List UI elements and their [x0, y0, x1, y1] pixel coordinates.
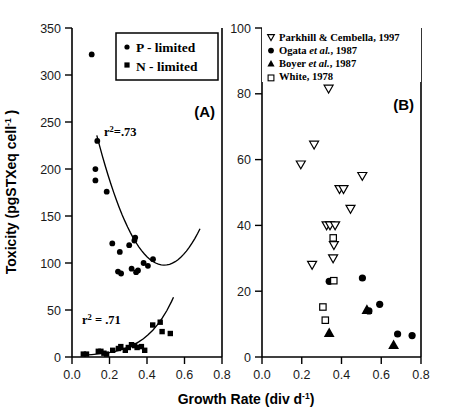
legend-marker-open-square-icon: [268, 75, 274, 81]
panel-a-ytick-0: 0: [54, 351, 61, 365]
panel-a-ytick-200: 200: [40, 163, 61, 177]
panel-a-x-ticks: [72, 357, 222, 364]
panel-a-ytick-50: 50: [47, 304, 61, 318]
data-point: [93, 166, 99, 172]
panel-b-series-boyer: [324, 304, 399, 349]
data-point: [94, 138, 100, 144]
panel-a-annotation-r2-p: r2=.73: [104, 124, 137, 139]
panel-b-xtick-0.4: 0.4: [333, 368, 350, 382]
panel-b-ytick-100: 100: [230, 22, 251, 36]
panel-b-xtick-0.6: 0.6: [373, 368, 390, 382]
data-point: [84, 351, 89, 356]
panel-b-ytick-20: 20: [237, 285, 251, 299]
data-point: [117, 249, 123, 255]
data-point: [409, 332, 416, 339]
panel-b-y-ticklabels: 0 20 40 60 80 100: [230, 22, 251, 365]
legend-marker-filled-circle-icon: [124, 44, 129, 49]
data-point: [376, 301, 383, 308]
panel-b-legend-label-parkhill: Parkhill & Cembella, 1997: [279, 32, 400, 43]
data-point: [158, 320, 163, 325]
data-point: [322, 317, 328, 323]
data-point: [331, 278, 337, 284]
svg-text:r2 = .71: r2 = .71: [82, 312, 121, 327]
panel-a-y-ticks: [65, 28, 72, 357]
panel-a-xtick-0.0: 0.0: [63, 368, 80, 382]
data-point: [110, 348, 115, 353]
panel-a-series-p-limited: [89, 52, 156, 277]
panel-b-legend: Parkhill & Cembella, 1997 Ogata et al., …: [262, 28, 421, 82]
data-point: [308, 261, 317, 269]
panel-b: 0 20 40 60 80 100 0.0 0.2 0.4 0.6 0.8 (B…: [230, 22, 430, 383]
panel-a-xtick-0.2: 0.2: [101, 368, 118, 382]
panel-b-ytick-0: 0: [244, 351, 251, 365]
data-point: [394, 330, 401, 337]
data-point: [330, 235, 336, 241]
panel-a-y-ticklabels: 0 50 100 150 200 250 300 350: [40, 22, 61, 365]
data-point: [358, 173, 367, 181]
panel-a-annotation-r2-n: r2 = .71: [82, 312, 121, 327]
panel-a-ytick-150: 150: [40, 210, 61, 224]
data-point: [150, 256, 156, 262]
panel-b-y-ticks: [255, 28, 262, 357]
panel-b-x-ticks: [262, 357, 421, 364]
x-axis-title: Growth Rate (div d-1): [178, 391, 315, 407]
data-point: [150, 322, 155, 327]
data-point: [346, 205, 355, 213]
panel-a-xtick-0.6: 0.6: [176, 368, 193, 382]
data-point: [320, 304, 326, 310]
panel-a: 0 50 100 150 200 250 300 350 0.0 0.2 0.4…: [40, 22, 231, 383]
panel-b-xtick-0.8: 0.8: [412, 368, 429, 382]
panel-a-ytick-300: 300: [40, 69, 61, 83]
panel-a-label: (A): [194, 103, 215, 120]
data-point: [159, 329, 164, 334]
data-point: [118, 271, 124, 277]
figure-container: 0 50 100 150 200 250 300 350 0.0 0.2 0.4…: [0, 0, 449, 419]
data-point: [388, 340, 399, 350]
data-point: [324, 327, 335, 337]
panel-b-xtick-0.2: 0.2: [293, 368, 310, 382]
data-point: [329, 255, 338, 263]
panel-b-xtick-0.0: 0.0: [253, 368, 270, 382]
panel-a-xtick-0.8: 0.8: [213, 368, 230, 382]
panel-a-legend-label-n: N - limited: [136, 59, 198, 74]
data-point: [296, 161, 305, 169]
panel-b-legend-label-boyer: Boyer et al., 1987: [279, 58, 357, 69]
data-point: [142, 348, 147, 353]
y-axis-title: Toxicity (pgSTXeq cell-1 ): [3, 110, 19, 274]
data-point: [359, 274, 366, 281]
panel-b-x-ticklabels: 0.0 0.2 0.4 0.6 0.8: [253, 368, 429, 382]
panel-a-ytick-250: 250: [40, 116, 61, 130]
data-point: [168, 331, 173, 336]
panel-b-ytick-80: 80: [237, 87, 251, 101]
data-point: [324, 85, 333, 93]
data-point: [135, 268, 141, 274]
data-point: [109, 241, 115, 247]
svg-text:r2=.73: r2=.73: [104, 124, 137, 139]
scientific-figure: 0 50 100 150 200 250 300 350 0.0 0.2 0.4…: [0, 0, 449, 419]
data-point: [145, 263, 151, 269]
data-point: [104, 351, 109, 356]
panel-a-ytick-100: 100: [40, 257, 61, 271]
data-point: [329, 242, 338, 250]
data-point: [126, 242, 132, 248]
panel-b-label: (B): [393, 96, 414, 113]
data-point: [89, 52, 95, 58]
panel-a-ytick-350: 350: [40, 22, 61, 36]
data-point: [93, 178, 99, 184]
data-point: [310, 141, 319, 149]
panel-b-ytick-40: 40: [237, 219, 251, 233]
legend-marker-filled-square-icon: [124, 62, 129, 67]
legend-marker-filled-circle-icon: [268, 48, 274, 54]
panel-b-legend-label-ogata: Ogata et al., 1987: [279, 45, 358, 56]
data-point: [132, 235, 138, 241]
data-point: [104, 189, 110, 195]
panel-a-legend-label-p: P - limited: [136, 40, 196, 55]
panel-a-xtick-0.4: 0.4: [138, 368, 155, 382]
panel-b-legend-label-white: White, 1978: [279, 71, 333, 82]
panel-b-ytick-60: 60: [237, 153, 251, 167]
panel-b-series-ogata: [326, 274, 416, 339]
panel-a-legend: P - limited N - limited: [116, 33, 218, 80]
panel-a-x-ticklabels: 0.0 0.2 0.4 0.6 0.8: [63, 368, 230, 382]
